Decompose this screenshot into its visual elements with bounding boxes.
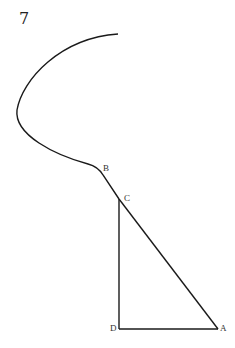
geometry-figure bbox=[0, 0, 235, 348]
curve-to-b bbox=[17, 34, 119, 199]
label-a: A bbox=[220, 323, 227, 333]
label-c: C bbox=[124, 193, 130, 203]
segment-ca bbox=[119, 199, 218, 329]
label-d: D bbox=[110, 323, 117, 333]
label-b: B bbox=[103, 163, 109, 173]
